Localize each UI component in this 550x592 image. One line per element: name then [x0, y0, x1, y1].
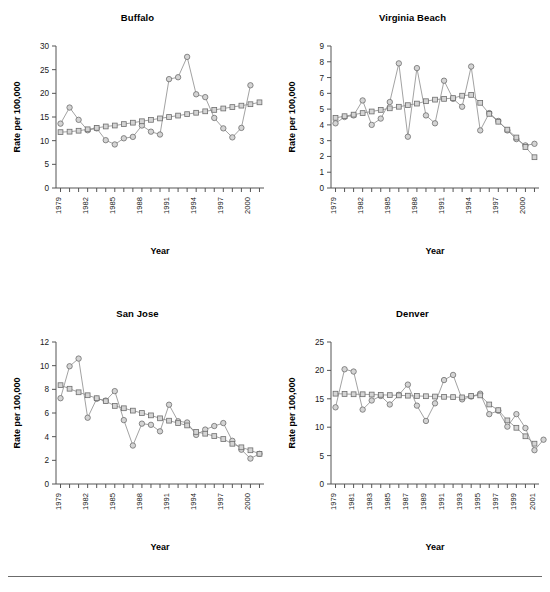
data-point-square [103, 399, 108, 404]
data-point-circle [487, 411, 492, 416]
data-point-square [58, 130, 63, 135]
data-point-circle [450, 372, 455, 377]
x-tick-label: 1991 [162, 197, 171, 214]
data-point-circle [342, 367, 347, 372]
data-point-circle [175, 75, 180, 80]
data-point-square [424, 394, 429, 399]
data-point-square [487, 111, 492, 116]
x-tick-label: 2001 [528, 493, 537, 510]
data-point-circle [468, 64, 473, 69]
y-axis-label: Rate per 100,000 [287, 377, 297, 448]
data-point-square [121, 406, 126, 411]
data-point-square [140, 119, 145, 124]
data-point-circle [387, 99, 392, 104]
data-point-square [194, 430, 199, 435]
data-point-square [212, 434, 217, 439]
svg-text:25: 25 [40, 66, 50, 75]
data-point-square [378, 392, 383, 397]
svg-text:30: 30 [40, 42, 50, 51]
svg-text:10: 10 [40, 362, 50, 371]
data-point-square [333, 391, 338, 396]
data-point-square [158, 416, 163, 421]
x-tick-label: 1997 [216, 493, 225, 510]
data-point-square [424, 99, 429, 104]
data-point-square [396, 104, 401, 109]
data-point-square [369, 392, 374, 397]
data-point-square [230, 441, 235, 446]
data-point-circle [230, 135, 235, 140]
x-axis-label: Year [425, 246, 445, 256]
svg-text:15: 15 [40, 113, 50, 122]
series-line-observed [336, 369, 544, 450]
x-tick-label: 1991 [437, 493, 446, 510]
data-point-square [387, 393, 392, 398]
data-point-square [514, 425, 519, 430]
x-tick-label: 1987 [401, 493, 410, 510]
data-point-square [351, 112, 356, 117]
x-tick-label: 1979 [329, 197, 338, 214]
footer-divider [8, 576, 542, 577]
x-axis-label: Year [150, 542, 170, 552]
svg-text:8: 8 [319, 58, 324, 67]
data-point-square [433, 97, 438, 102]
data-point-square [203, 109, 208, 114]
svg-text:2: 2 [44, 456, 49, 465]
x-tick-label: 1979 [54, 197, 63, 214]
x-tick-label: 1981 [347, 493, 356, 510]
data-point-circle [148, 422, 153, 427]
svg-text:20: 20 [315, 366, 325, 375]
data-point-circle [459, 104, 464, 109]
data-point-square [433, 394, 438, 399]
data-point-circle [239, 125, 244, 130]
data-point-square [514, 135, 519, 140]
data-point-square [333, 115, 338, 120]
svg-text:1: 1 [319, 168, 324, 177]
data-point-circle [184, 54, 189, 59]
data-point-square [112, 123, 117, 128]
plot-san-jose: 0246810121979198219851988199119941997200… [0, 296, 275, 592]
data-point-square [442, 96, 447, 101]
data-point-square [212, 108, 217, 113]
data-point-circle [369, 122, 374, 127]
svg-text:6: 6 [319, 89, 324, 98]
data-point-circle [432, 121, 437, 126]
x-tick-label: 1982 [356, 197, 365, 214]
data-point-square [239, 103, 244, 108]
data-point-circle [212, 423, 217, 428]
data-point-square [248, 102, 253, 107]
data-point-circle [360, 98, 365, 103]
data-point-square [405, 103, 410, 108]
svg-text:6: 6 [44, 409, 49, 418]
data-point-square [130, 120, 135, 125]
data-point-square [505, 127, 510, 132]
data-point-circle [58, 121, 63, 126]
data-point-circle [248, 83, 253, 88]
data-point-circle [369, 398, 374, 403]
data-point-square [396, 393, 401, 398]
data-point-circle [130, 443, 135, 448]
panel-buffalo: Buffalo 05101520253019791982198519881991… [0, 0, 275, 296]
x-tick-label: 2000 [243, 493, 252, 510]
data-point-square [248, 448, 253, 453]
svg-text:20: 20 [40, 89, 50, 98]
data-point-square [469, 93, 474, 98]
data-point-square [167, 115, 172, 120]
data-point-square [369, 109, 374, 114]
data-point-circle [112, 388, 117, 393]
data-point-circle [333, 405, 338, 410]
x-tick-label: 1985 [108, 493, 117, 510]
x-tick-label: 1995 [473, 493, 482, 510]
data-point-square [257, 451, 262, 456]
data-point-square [257, 100, 262, 105]
data-point-square [451, 96, 456, 101]
data-point-circle [67, 364, 72, 369]
x-tick-label: 1994 [189, 493, 198, 510]
data-point-square [360, 111, 365, 116]
data-point-circle [193, 92, 198, 97]
x-tick-label: 1988 [410, 197, 419, 214]
svg-text:3: 3 [319, 137, 324, 146]
svg-text:5: 5 [319, 105, 324, 114]
x-tick-label: 1999 [509, 493, 518, 510]
svg-text:5: 5 [44, 160, 49, 169]
x-tick-label: 1989 [419, 493, 428, 510]
